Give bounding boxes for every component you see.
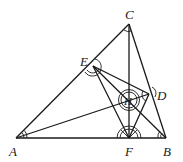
label-E: E bbox=[79, 54, 88, 69]
label-F: F bbox=[124, 144, 134, 159]
segment-CA bbox=[16, 24, 129, 138]
angle-marks bbox=[22, 30, 162, 138]
diagram-canvas: A B C D E F H bbox=[0, 0, 183, 162]
label-H: H bbox=[123, 95, 133, 107]
segment-BC bbox=[129, 24, 166, 138]
label-D: D bbox=[156, 88, 167, 103]
label-A: A bbox=[8, 144, 17, 159]
label-C: C bbox=[125, 7, 134, 22]
label-B: B bbox=[163, 144, 171, 159]
geometry-diagram: A B C D E F H bbox=[0, 0, 183, 162]
